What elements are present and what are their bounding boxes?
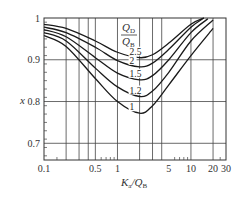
y-tick-label: 1 [35,13,40,24]
x-tick-label: 0.5 [89,163,102,174]
x-tick-label: 20 [208,163,218,174]
x-tick-label: 10 [186,163,196,174]
y-axis-title: x [19,94,25,106]
curve-label: 1.5 [130,69,142,79]
legend-denominator: QB [122,35,135,49]
x-tick-label: 30 [221,163,231,174]
curve-label: 1 [130,102,135,112]
curve-label: 1.2 [130,86,142,96]
y-tick-label: 0.7 [28,138,41,149]
x-tick-label: 1 [115,163,120,174]
y-tick-label: 0.9 [28,54,41,65]
legend-numerator: QD [122,21,135,35]
chart: 2.521.51.21 0.10.5151020300.70.80.91 QD … [0,0,245,200]
curve-label: 2 [130,56,135,66]
x-axis-title: Ka/QB [120,176,147,190]
x-tick-label: 0.1 [38,163,51,174]
legend-title: QD QB [121,21,137,49]
x-tick-label: 5 [166,163,171,174]
y-tick-label: 0.8 [28,96,41,107]
